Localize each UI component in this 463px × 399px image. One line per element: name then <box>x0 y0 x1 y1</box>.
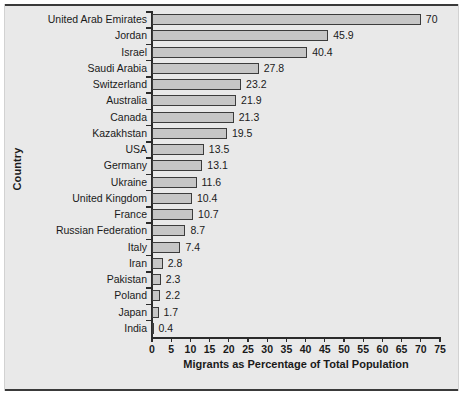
bar <box>152 14 421 25</box>
bar-value-label: 1.7 <box>164 306 179 318</box>
bar <box>152 323 154 334</box>
bar-value-label: 10.4 <box>197 192 217 204</box>
x-axis-title: Migrants as Percentage of Total Populati… <box>151 358 441 370</box>
bar <box>152 144 204 155</box>
bar-value-label: 11.6 <box>202 176 222 188</box>
bar <box>152 112 234 123</box>
x-tick-mark <box>343 337 344 342</box>
x-tick-mark <box>286 337 287 342</box>
category-label: Jordan <box>0 29 147 41</box>
x-tick-mark <box>247 337 248 342</box>
category-label: India <box>0 322 147 334</box>
category-label: Canada <box>0 111 147 123</box>
bar-value-label: 8.7 <box>190 224 205 236</box>
bar <box>152 225 185 236</box>
x-tick-mark <box>324 337 325 342</box>
bar-value-label: 23.2 <box>246 78 266 90</box>
bar-value-label: 13.1 <box>207 159 227 171</box>
bar <box>152 307 159 318</box>
bar-value-label: 2.8 <box>168 257 183 269</box>
bar <box>152 79 241 90</box>
bar-value-label: 2.3 <box>166 273 181 285</box>
category-label: Saudi Arabia <box>0 62 147 74</box>
bar <box>152 128 227 139</box>
x-tick-mark <box>382 337 383 342</box>
bar <box>152 177 197 188</box>
bar <box>152 30 328 41</box>
bar <box>152 95 236 106</box>
bar <box>152 290 160 301</box>
x-tick-mark <box>363 337 364 342</box>
bar <box>152 209 193 220</box>
x-tick-mark <box>420 337 421 342</box>
bar-value-label: 27.8 <box>264 62 284 74</box>
category-label: United Arab Emirates <box>0 13 147 25</box>
bar <box>152 274 161 285</box>
x-tick-mark <box>439 337 440 342</box>
bar <box>152 160 202 171</box>
bar-value-label: 7.4 <box>185 241 200 253</box>
x-tick-mark <box>171 337 172 342</box>
x-tick-mark <box>190 337 191 342</box>
x-tick-mark <box>401 337 402 342</box>
category-label: Russian Federation <box>0 224 147 236</box>
bar-value-label: 45.9 <box>333 29 353 41</box>
x-tick-mark <box>305 337 306 342</box>
x-tick-mark <box>228 337 229 342</box>
plot-area: 051015202530354045505560657075 United Ar… <box>0 0 463 399</box>
bar <box>152 63 259 74</box>
bar <box>152 242 180 253</box>
bar-value-label: 21.3 <box>239 111 259 123</box>
category-label: Iran <box>0 257 147 269</box>
bar-value-label: 0.4 <box>159 322 174 334</box>
y-axis-title: Country <box>11 126 23 212</box>
bar-value-label: 19.5 <box>232 127 252 139</box>
bar <box>152 47 307 58</box>
bar-value-label: 13.5 <box>209 143 229 155</box>
bar <box>152 258 163 269</box>
bar-value-label: 40.4 <box>312 46 332 58</box>
bar-value-label: 21.9 <box>241 94 261 106</box>
bar <box>152 193 192 204</box>
x-tick-mark <box>209 337 210 342</box>
chart-figure: 051015202530354045505560657075 United Ar… <box>0 0 463 399</box>
bar-value-label: 2.2 <box>165 289 180 301</box>
category-label: Australia <box>0 94 147 106</box>
category-label: Switzerland <box>0 78 147 90</box>
x-tick-mark <box>151 337 152 342</box>
bar-value-label: 70 <box>426 13 438 25</box>
x-axis-line <box>151 337 441 339</box>
x-tick-mark <box>267 337 268 342</box>
category-label: Israel <box>0 46 147 58</box>
y-axis-line <box>151 11 153 338</box>
category-label: Poland <box>0 289 147 301</box>
category-label: Pakistan <box>0 273 147 285</box>
x-tick-label: 75 <box>425 343 455 355</box>
category-label: Japan <box>0 306 147 318</box>
bar-value-label: 10.7 <box>198 208 218 220</box>
category-label: Italy <box>0 241 147 253</box>
